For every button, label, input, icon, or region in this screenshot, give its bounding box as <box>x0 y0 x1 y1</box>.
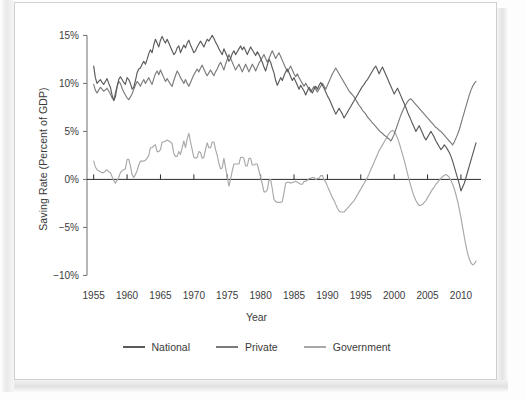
y-tick-label: 5% <box>65 126 80 137</box>
legend-item-private[interactable]: Private <box>216 341 278 353</box>
legend-item-government[interactable]: Government <box>304 341 391 353</box>
figure-frame: 15%10%5%0%−5%−10% 1955196019651970197519… <box>14 2 497 380</box>
series-line-national <box>94 35 476 191</box>
legend-swatch-icon <box>123 346 145 348</box>
x-tick-label: 2010 <box>450 290 473 301</box>
y-tick-label: −5% <box>59 222 79 233</box>
series-line-government <box>94 130 476 264</box>
legend-label: Government <box>333 341 391 353</box>
chart-plot-area: 15%10%5%0%−5%−10% 1955196019651970197519… <box>15 3 498 381</box>
x-tick-label: 1965 <box>149 290 172 301</box>
y-tick-label: 0% <box>65 174 80 185</box>
x-tick-label: 1980 <box>250 290 273 301</box>
x-axis-label: Year <box>15 311 498 323</box>
x-tick-label: 2000 <box>383 290 406 301</box>
page-shadow-left <box>0 0 14 392</box>
series-line-private <box>94 51 476 145</box>
y-axis-label: Saving Rate (Percent of GDP) <box>37 69 49 249</box>
y-tick-label: 15% <box>59 30 79 41</box>
page-shadow-right <box>497 8 508 392</box>
legend-item-national[interactable]: National <box>123 341 191 353</box>
legend-swatch-icon <box>216 346 238 348</box>
legend-swatch-icon <box>304 346 326 348</box>
x-tick-label: 1990 <box>316 290 339 301</box>
y-tick-label: −10% <box>53 270 79 281</box>
x-tick-label: 1960 <box>116 290 139 301</box>
legend-label: National <box>152 341 191 353</box>
legend-label: Private <box>245 341 278 353</box>
page-shadow-bottom <box>14 380 508 392</box>
page-canvas: 15%10%5%0%−5%−10% 1955196019651970197519… <box>0 0 526 400</box>
x-tick-label: 1995 <box>350 290 373 301</box>
x-tick-label: 1975 <box>216 290 239 301</box>
x-tick-label: 1955 <box>83 290 106 301</box>
x-tick-label: 1985 <box>283 290 306 301</box>
chart-legend: NationalPrivateGovernment <box>15 341 498 353</box>
x-tick-label: 2005 <box>416 290 439 301</box>
x-axis: 1955196019651970197519801985199019952000… <box>83 174 473 301</box>
data-series-group <box>94 35 476 264</box>
y-axis: 15%10%5%0%−5%−10% <box>53 30 87 281</box>
chart-figure: 15%10%5%0%−5%−10% 1955196019651970197519… <box>15 3 498 381</box>
y-tick-label: 10% <box>59 78 79 89</box>
x-tick-label: 1970 <box>183 290 206 301</box>
